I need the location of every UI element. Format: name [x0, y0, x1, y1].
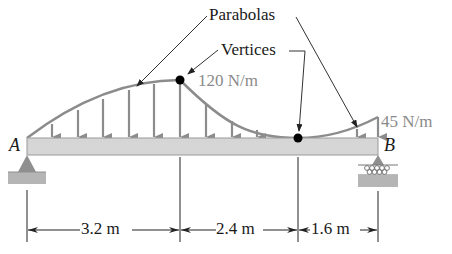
roller-support-b [358, 155, 398, 187]
vertex-dot-min [294, 134, 303, 143]
support-b-label: B [384, 136, 395, 154]
end-load-label: 45 N/m [381, 113, 432, 130]
dimension-label-3: 1.6 m [311, 220, 350, 237]
dimension-label-1: 3.2 m [81, 220, 120, 237]
parabolas-label: Parabolas [209, 6, 275, 23]
beam [27, 138, 378, 155]
vertex-dot-peak [176, 76, 185, 85]
dimension-label-2: 2.4 m [216, 220, 255, 237]
support-a-label: A [9, 136, 20, 154]
vertices-label: Vertices [221, 41, 276, 58]
peak-load-label: 120 N/m [198, 72, 258, 89]
pin-support-a [8, 155, 46, 184]
